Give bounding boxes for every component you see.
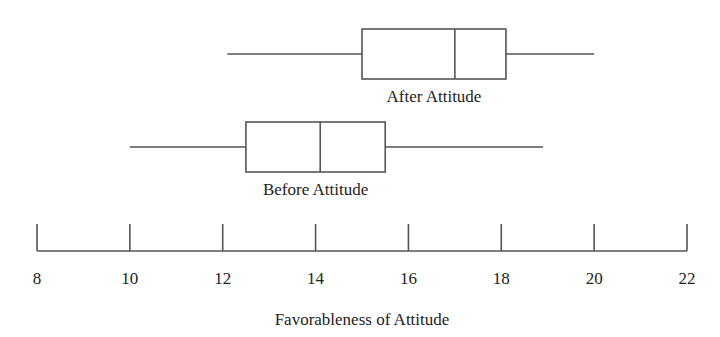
box-plot-chart: After Attitude Before Attitude 810121416… xyxy=(0,0,720,337)
x-tick-label: 10 xyxy=(121,269,138,288)
before-attitude-boxplot: Before Attitude xyxy=(130,122,543,199)
x-tick-label: 22 xyxy=(679,269,696,288)
x-tick-label: 20 xyxy=(586,269,603,288)
before-attitude-label: Before Attitude xyxy=(263,180,368,199)
x-tick-label: 12 xyxy=(214,269,231,288)
x-axis: 810121416182022 Favorableness of Attitud… xyxy=(33,224,696,329)
x-axis-title: Favorableness of Attitude xyxy=(275,310,450,329)
after-box xyxy=(362,29,506,79)
x-tick-label: 18 xyxy=(493,269,510,288)
x-tick-label: 14 xyxy=(307,269,325,288)
x-axis-ticks: 810121416182022 xyxy=(33,224,696,288)
before-box xyxy=(246,122,385,172)
x-tick-label: 16 xyxy=(400,269,417,288)
x-tick-label: 8 xyxy=(33,269,42,288)
after-attitude-boxplot: After Attitude xyxy=(227,29,594,106)
after-attitude-label: After Attitude xyxy=(387,87,482,106)
